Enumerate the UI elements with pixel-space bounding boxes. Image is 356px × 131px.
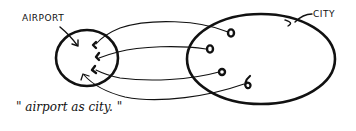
diagram-caption: " airport as city. ": [16, 100, 122, 114]
airport-label: AIRPORT: [22, 13, 64, 23]
city-point-2: [207, 45, 213, 52]
airport-point-1: [93, 42, 96, 48]
city-point-1: [228, 29, 234, 36]
city-label: CITY: [313, 9, 335, 19]
airport-point-2: [96, 53, 99, 60]
city-point-3: [219, 69, 225, 75]
edge-city1-airport1: [96, 22, 228, 44]
city-point-4: [245, 76, 250, 88]
city-label-arrowhead: [285, 20, 291, 26]
airport-point-3: [92, 66, 96, 73]
city-ellipse: [187, 14, 335, 104]
